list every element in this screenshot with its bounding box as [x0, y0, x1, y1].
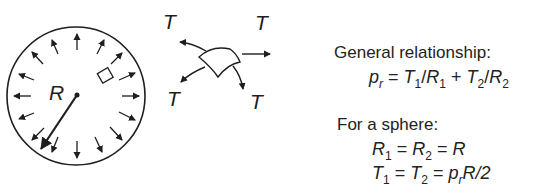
- shell-element: [199, 48, 240, 77]
- tension-label-top-left: T: [163, 10, 178, 33]
- radius-label: R: [49, 81, 64, 104]
- general-equation: pr = T1/R1 + T2/R2: [369, 67, 509, 87]
- sphere-heading: For a sphere:: [337, 115, 438, 135]
- sphere-tension-equation: T1 = T2 = prR/2: [372, 163, 490, 183]
- sphere-radius-equation: R1 = R2 = R: [372, 139, 465, 159]
- general-heading: General relationship:: [334, 43, 491, 63]
- tension-label-bottom-right: T: [250, 90, 265, 113]
- wall-element-square: [97, 68, 113, 84]
- tension-label-top-right: T: [255, 11, 270, 34]
- tension-label-bottom-left: T: [167, 87, 182, 110]
